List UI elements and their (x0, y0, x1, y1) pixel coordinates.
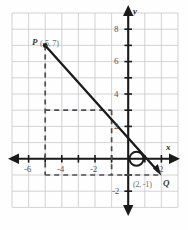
y-tick-4: 4 (114, 90, 118, 99)
point-P-coords: (-5, 7) (40, 39, 59, 48)
point-Q-label: Q (163, 179, 169, 188)
x-tick-neg2: -2 (90, 165, 97, 174)
coordinate-plot-svg (0, 0, 188, 230)
x-tick-neg6: -6 (24, 165, 31, 174)
y-axis-label: y (133, 7, 137, 16)
x-tick-neg4: -4 (57, 165, 64, 174)
coordinate-plane-figure: x y 8 6 4 2 -2 -6 -4 -2 2 P (-5, 7) (2, … (0, 0, 188, 230)
y-tick-8: 8 (114, 25, 118, 34)
x-axis-label: x (166, 143, 170, 152)
y-tick-2: 2 (114, 122, 118, 131)
y-tick-neg2: -2 (112, 187, 119, 196)
y-tick-6: 6 (114, 57, 118, 66)
point-P-label: P (32, 38, 37, 47)
x-tick-2: 2 (159, 165, 163, 174)
point-Q-coords: (2, -1) (133, 180, 152, 189)
